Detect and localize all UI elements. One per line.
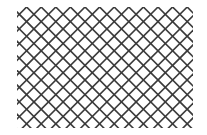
- lattice-line: [0, 0, 61, 135]
- lattice-line: [0, 0, 178, 135]
- lattice-line: [0, 0, 105, 135]
- lattice-line: [124, 0, 207, 135]
- lattice-line: [197, 0, 207, 135]
- lattice-line: [0, 0, 105, 135]
- lattice-line: [0, 0, 17, 135]
- lattice-lines: [0, 0, 207, 135]
- lattice-line: [0, 0, 17, 135]
- lattice-line: [124, 0, 207, 135]
- crosshatch-pattern: [0, 0, 207, 135]
- lattice-line: [0, 0, 178, 135]
- lattice-line: [197, 0, 207, 135]
- lattice-line: [7, 0, 207, 135]
- lattice-line: [51, 0, 207, 135]
- lattice-line: [51, 0, 207, 135]
- lattice-line: [7, 0, 207, 135]
- lattice-line: [0, 0, 207, 135]
- lattice-line: [0, 0, 61, 135]
